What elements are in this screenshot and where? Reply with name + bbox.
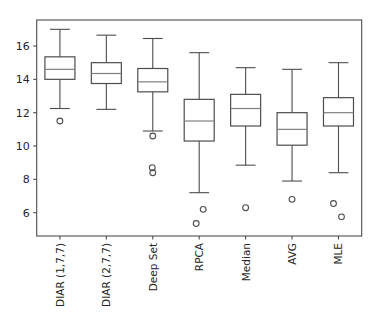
outlier-point xyxy=(289,196,295,202)
x-tick-label: AVG xyxy=(286,243,298,265)
box-group xyxy=(91,35,121,109)
box-rect xyxy=(231,94,261,126)
box-group xyxy=(184,53,214,227)
box-plot-figure: 6810121416 DIAR (1,7,7)DIAR (2,7,7)Deep … xyxy=(0,0,377,320)
x-tick-label: Median xyxy=(240,243,252,281)
box-group xyxy=(45,29,75,124)
box-plot-canvas: 6810121416 DIAR (1,7,7)DIAR (2,7,7)Deep … xyxy=(0,0,377,320)
x-tick-label: DIAR (1,7,7) xyxy=(54,243,66,307)
box-rect xyxy=(138,69,168,92)
box-rect xyxy=(323,98,353,126)
y-tick-label: 6 xyxy=(23,207,30,220)
outlier-point xyxy=(331,201,337,207)
y-tick-label: 10 xyxy=(16,140,30,153)
box-group xyxy=(323,63,353,220)
outlier-point xyxy=(200,206,206,212)
x-tick-label: MLE xyxy=(332,243,344,265)
box-group xyxy=(138,38,168,175)
x-tick-label: RPCA xyxy=(193,242,205,271)
x-tick-label: DIAR (2,7,7) xyxy=(100,243,112,307)
y-axis-ticks: 6810121416 xyxy=(16,40,37,220)
outlier-point xyxy=(339,214,345,220)
box-rect xyxy=(45,57,75,80)
outlier-point xyxy=(193,221,199,227)
outlier-point xyxy=(243,205,249,211)
y-tick-label: 14 xyxy=(16,73,30,86)
y-tick-label: 16 xyxy=(16,40,30,53)
outlier-point xyxy=(57,118,63,124)
x-axis-ticks: DIAR (1,7,7)DIAR (2,7,7)Deep SetRPCAMedi… xyxy=(54,236,345,307)
boxes-group xyxy=(45,29,354,226)
box-group xyxy=(277,69,307,202)
x-tick-label: Deep Set xyxy=(147,243,159,291)
outlier-point xyxy=(150,133,156,139)
box-group xyxy=(231,68,261,211)
y-tick-label: 12 xyxy=(16,107,30,120)
box-rect xyxy=(184,99,214,141)
y-tick-label: 8 xyxy=(23,173,30,186)
